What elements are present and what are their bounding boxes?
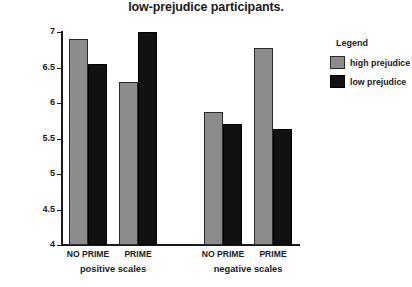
bar-high-prejudice	[204, 112, 223, 245]
legend-swatch-high-prejudice	[330, 56, 345, 69]
legend-swatch-low-prejudice	[330, 75, 345, 88]
x-axis-group-label: positive scales	[80, 264, 146, 274]
x-axis-category-label: NO PRIME	[202, 249, 245, 259]
x-axis-group-label: negative scales	[214, 264, 283, 274]
page-title: low-prejudice participants.	[0, 0, 412, 14]
y-axis-tick-label: 4.5	[27, 204, 55, 214]
y-axis-tick	[57, 245, 62, 246]
y-axis-tick-label: 7	[27, 26, 55, 36]
legend-label-low-prejudice: low prejudice	[350, 77, 406, 87]
bar-high-prejudice	[69, 39, 88, 245]
x-axis-category-label: PRIME	[259, 249, 286, 259]
y-axis-tick-label: 6.5	[27, 62, 55, 72]
legend-title: Legend	[336, 38, 410, 48]
y-axis-tick-label: 4	[27, 239, 55, 249]
legend-label-high-prejudice: high prejudice	[350, 58, 410, 68]
y-axis-tick-label: 5.5	[27, 133, 55, 143]
legend-item-high-prejudice: high prejudice	[330, 56, 410, 69]
plot-area	[62, 32, 300, 245]
bar-low-prejudice	[223, 124, 242, 245]
y-axis-tick-label: 6	[27, 97, 55, 107]
bar-low-prejudice	[88, 64, 107, 245]
legend-item-low-prejudice: low prejudice	[330, 75, 410, 88]
y-axis-tick-label: 5	[27, 168, 55, 178]
x-axis-category-label: PRIME	[124, 249, 151, 259]
bar-high-prejudice	[119, 82, 138, 245]
x-axis-category-label: NO PRIME	[67, 249, 110, 259]
bar-high-prejudice	[254, 48, 273, 245]
legend: Legend high prejudice low prejudice	[330, 38, 410, 94]
bar-low-prejudice	[138, 32, 157, 245]
bar-low-prejudice	[273, 129, 292, 245]
figure-container: low-prejudice participants. 44.555.566.5…	[0, 0, 412, 287]
